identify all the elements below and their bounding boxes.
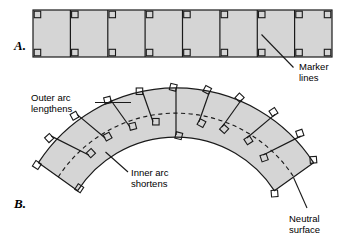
panel-b-label: B. — [13, 196, 26, 211]
panel-a-label: A. — [13, 38, 26, 53]
outer-arc-label-line1: Outer arc — [31, 92, 71, 103]
neutral-surface-label-line1: Neutral — [289, 213, 320, 224]
marker-lines-label-line1: Marker — [299, 61, 329, 72]
marker-lines-label-line2: lines — [299, 72, 319, 83]
inner-arc-label-line2: shortens — [131, 178, 168, 189]
bending-beam-figure: A. Marker lines — [0, 0, 349, 246]
outer-arc-label-line2: lengthens — [31, 103, 72, 114]
neutral-surface-label-line2: surface — [289, 224, 320, 235]
inner-arc-label-line1: Inner arc — [131, 167, 169, 178]
